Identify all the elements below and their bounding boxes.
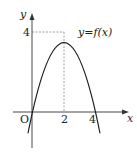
- y-tick-4: 4: [23, 26, 30, 39]
- function-graph: y x O 2 4 4 y=f(x): [0, 0, 137, 152]
- x-tick-4: 4: [89, 113, 96, 126]
- y-axis-label: y: [19, 8, 27, 21]
- x-tick-2: 2: [61, 113, 68, 126]
- origin-label: O: [20, 113, 29, 126]
- y-axis-arrow-icon: [30, 13, 35, 20]
- function-label: y=f(x): [77, 26, 112, 39]
- x-axis-label: x: [127, 112, 134, 125]
